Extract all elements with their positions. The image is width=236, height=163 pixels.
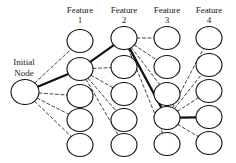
node-feature-2-3[interactable]: [111, 83, 137, 106]
node-feature-3-5[interactable]: [154, 133, 180, 156]
node-feature-1-4[interactable]: [67, 109, 93, 132]
initial-node-label: Initial Node: [2, 57, 46, 78]
node-feature-1-5[interactable]: [67, 134, 93, 157]
node-feature-1-1[interactable]: [67, 30, 93, 53]
column-label-feature-4: Feature 4: [182, 5, 236, 25]
node-feature-2-2[interactable]: [111, 56, 137, 79]
candidate-edge: [178, 98, 199, 111]
node-feature-3-4[interactable]: [154, 107, 180, 130]
column-label-feature-4-line2: 4: [182, 15, 236, 25]
node-feature-4-5[interactable]: [196, 132, 222, 155]
initial-node[interactable]: [11, 80, 39, 105]
node-feature-4-3[interactable]: [196, 80, 222, 103]
node-feature-2-5[interactable]: [111, 134, 137, 157]
node-feature-4-1[interactable]: [196, 27, 222, 50]
column-label-feature-4-line1: Feature: [182, 5, 236, 15]
node-feature-2-4[interactable]: [111, 109, 137, 132]
candidate-edge: [39, 93, 67, 95]
candidate-edge: [37, 98, 69, 114]
node-feature-3-2[interactable]: [154, 56, 180, 79]
candidate-edge: [91, 75, 113, 88]
node-feature-1-2[interactable]: [67, 58, 93, 81]
node-feature-3-1[interactable]: [154, 27, 180, 50]
selected-edge: [90, 45, 114, 62]
node-group: [11, 27, 222, 157]
node-feature-2-1[interactable]: [111, 27, 137, 50]
feature-graph-figure: Initial Node Feature 1 Feature 2 Feature…: [0, 0, 236, 163]
initial-node-label-line2: Node: [2, 68, 46, 79]
initial-node-label-line1: Initial: [2, 57, 46, 68]
node-feature-4-2[interactable]: [196, 54, 222, 77]
node-feature-4-4[interactable]: [196, 106, 222, 129]
node-feature-3-3[interactable]: [154, 83, 180, 106]
candidate-edge: [178, 124, 198, 136]
candidate-edge: [134, 45, 156, 60]
candidate-edge: [93, 68, 111, 69]
node-feature-1-3[interactable]: [67, 85, 93, 108]
